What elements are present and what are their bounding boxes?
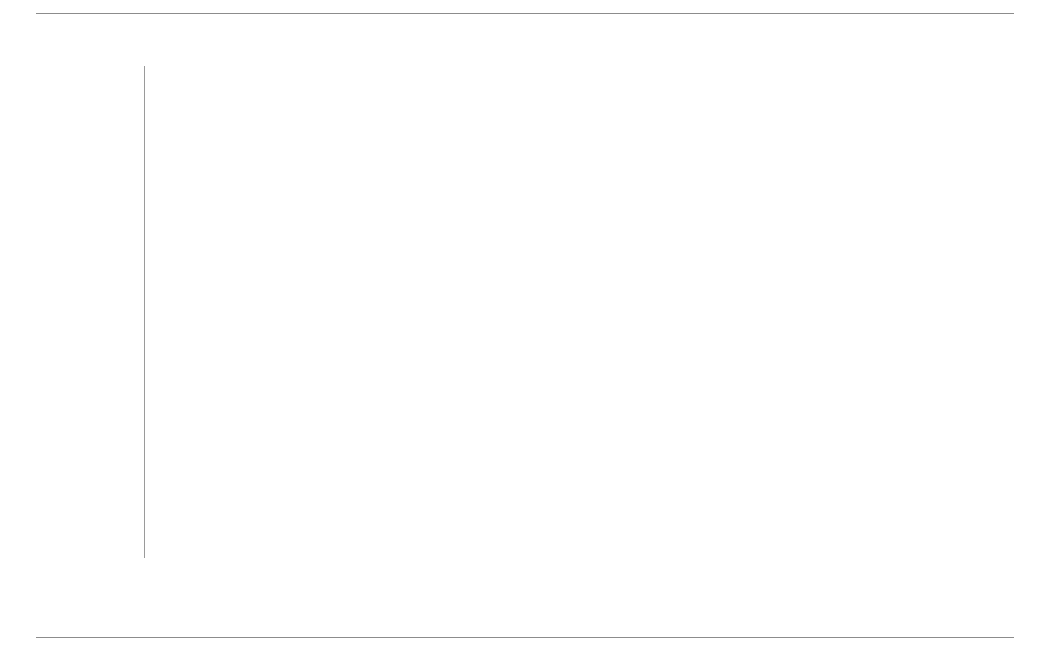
page-rule-top: [36, 13, 1014, 14]
page-rule-bottom: [36, 637, 1014, 638]
stacked-bar-chart: [0, 22, 1049, 622]
value-axis-line: [144, 66, 145, 558]
chart-legend: [144, 600, 996, 624]
category-axis-labels: [0, 66, 136, 558]
plot-area: [144, 66, 996, 558]
value-axis-tick-labels: [144, 565, 996, 587]
